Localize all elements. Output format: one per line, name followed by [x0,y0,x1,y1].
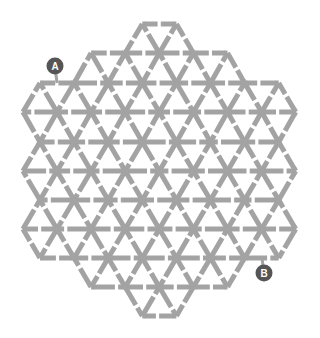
lattice-edge [49,173,56,185]
lattice-edge [271,246,277,257]
lattice-joint [74,142,76,145]
lattice-edge [212,238,223,256]
lattice-edge [212,190,217,198]
lattice-edge [66,186,73,198]
lattice-joint [159,229,161,232]
lattice-edge [172,193,175,198]
lattice-joint [108,200,110,203]
lattice-edge [134,26,141,38]
lattice-edge [171,26,175,33]
lattice-edge [131,144,141,161]
lattice-edge [92,216,99,227]
lattice-edge [92,276,97,285]
lattice-edge [134,85,141,97]
lattice-joint [193,229,195,232]
lattice-edge [212,64,221,81]
lattice-joint [262,171,264,174]
lattice-joint [57,229,59,232]
lattice-edge [161,94,170,110]
lattice-edge [58,231,64,241]
lattice-edge [104,251,107,256]
lattice-edge [185,273,192,285]
lattice-edge [41,85,44,90]
lattice-edge [224,231,227,235]
lattice-edge [178,85,189,103]
lattice-edge [229,173,237,186]
lattice-edge [92,231,102,248]
lattice-edge [126,41,132,51]
lattice-edge [246,144,254,158]
lattice-edge [195,277,200,285]
lattice-joint [176,200,178,203]
lattice-edge [135,202,141,213]
lattice-joint [176,24,178,27]
lattice-edge [58,161,63,169]
lattice-edge [151,273,158,285]
lattice-edge [46,92,56,110]
lattice-edge [200,240,209,256]
lattice-edge [35,85,39,91]
lattice-edge [195,114,203,128]
lattice-edge [75,130,81,140]
lattice-joint [262,112,264,115]
start-marker-a[interactable]: A [47,58,64,84]
lattice-joint [245,142,247,145]
lattice-joint [57,112,59,115]
lattice-edge [165,122,175,140]
lattice-edge [62,85,73,103]
lattice-edge [195,173,199,179]
lattice-edge [285,114,294,131]
lattice-edge [46,114,56,131]
lattice-edge [184,213,192,227]
lattice-joint [91,112,93,115]
lattice-edge [285,231,295,248]
lattice-edge [24,231,30,241]
lattice-edge [222,278,226,285]
lattice-edge [148,34,158,51]
lattice-edge [256,161,261,169]
lattice-joint [23,229,25,232]
lattice-joint [228,229,230,232]
lattice-edge [246,128,253,140]
lattice-edge [79,173,90,191]
lattice-joint [159,171,161,174]
lattice-edge [161,114,164,119]
lattice-edge [161,173,171,190]
lattice-edge [133,66,141,81]
lattice-edge [287,97,295,110]
lattice-edge [161,36,170,51]
lattice-edge [238,246,244,256]
lattice-joint [159,53,161,56]
lattice-edge [190,173,192,177]
lattice-edge [47,155,56,170]
lattice-joint [40,200,42,203]
lattice-edge [133,242,142,257]
lattice-edge [101,202,108,213]
lattice-edge [24,94,33,110]
lattice-edge [217,211,226,227]
lattice-edge [263,161,268,169]
lattice-joint [176,313,178,316]
lattice-edge [83,114,90,127]
end-marker-b[interactable]: B [256,258,273,282]
lattice-edge [36,135,39,140]
lattice-edge [212,260,221,275]
lattice-joint [245,200,247,203]
lattice-edge [126,55,131,63]
lattice-edge [109,202,112,207]
lattice-joint [91,229,93,232]
maze-board: A B [0,0,320,338]
lattice-edge [109,247,114,256]
lattice-joint [211,200,213,203]
lattice-edge [172,250,175,256]
lattice-edge [236,202,244,215]
lattice-edge [195,211,205,227]
lattice-edge [133,260,141,274]
lattice-edge [204,72,209,81]
lattice-edge [178,260,184,270]
lattice-edge [201,260,209,274]
lattice-edge [161,212,170,227]
lattice-joint [57,171,59,174]
lattice-edge [121,163,124,169]
lattice-joint [125,53,127,56]
